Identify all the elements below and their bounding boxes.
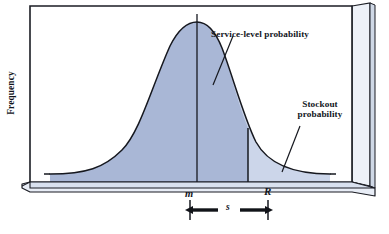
- axis-marker-label-m: m: [185, 188, 193, 199]
- axis-marker-label-R: R: [264, 186, 271, 198]
- figure-canvas: Frequency Service-level probability Stoc…: [0, 0, 389, 234]
- annotation-service-level-probability: Service-level probability: [211, 30, 309, 40]
- frame-right-panel: [352, 3, 375, 188]
- annotation-stockout-probability: Stockout probability: [283, 100, 357, 120]
- y-axis-label: Frequency: [6, 61, 16, 125]
- base-plinth: [22, 182, 375, 196]
- annotation-stockout-line-2: probability: [283, 110, 357, 120]
- span-label-s: s: [226, 202, 230, 212]
